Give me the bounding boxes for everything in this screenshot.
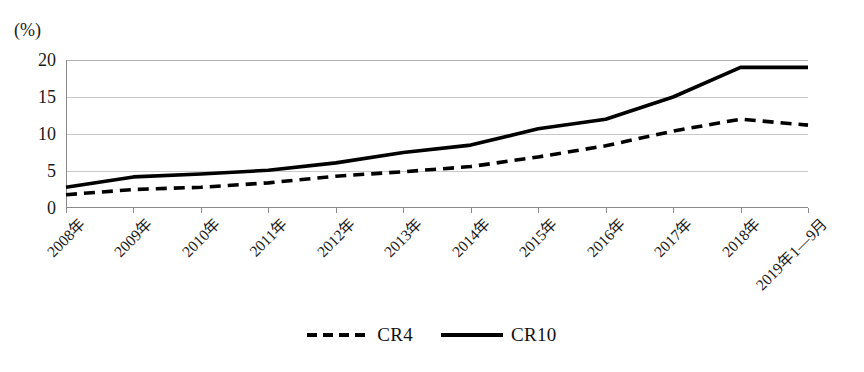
legend-swatch-cr4-icon	[307, 328, 369, 342]
x-tick-label: 2015年	[513, 212, 562, 261]
x-tick-label: 2008年	[41, 212, 90, 261]
x-tick-label: 2014年	[445, 212, 494, 261]
y-tick-label: 5	[16, 161, 56, 182]
y-tick-label: 20	[16, 50, 56, 71]
legend-item-cr4: CR4	[307, 324, 413, 346]
y-tick-label: 10	[16, 124, 56, 145]
y-axis-unit-label: (%)	[14, 20, 41, 41]
legend-swatch-cr10-icon	[441, 328, 503, 342]
chart-legend: CR4CR10	[0, 318, 864, 352]
line-chart: (%) 05101520 2008年2009年2010年2011年2012年20…	[0, 0, 864, 372]
x-tick-label: 2010年	[176, 212, 225, 261]
x-tick-label: 2018年	[715, 212, 764, 261]
x-tick-label: 2009年	[108, 212, 157, 261]
y-tick-label: 15	[16, 87, 56, 108]
x-tick-label: 2011年	[244, 212, 292, 260]
x-tick-label: 2017年	[648, 212, 697, 261]
legend-item-cr10: CR10	[441, 324, 557, 346]
series-lines	[66, 60, 808, 208]
x-axis-tick-labels: 2008年2009年2010年2011年2012年2013年2014年2015年…	[0, 212, 864, 322]
x-tick-label: 2013年	[378, 212, 427, 261]
x-tick-label: 2016年	[580, 212, 629, 261]
x-tick-label: 2012年	[311, 212, 360, 261]
legend-label: CR4	[377, 324, 413, 346]
series-line-cr4	[66, 119, 808, 194]
plot-area	[66, 60, 808, 208]
legend-label: CR10	[511, 324, 557, 346]
